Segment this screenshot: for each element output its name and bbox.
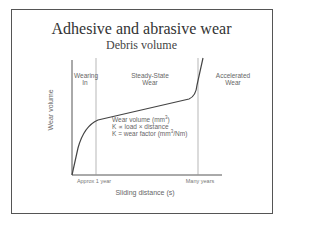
region-accelerated: Accelerated Wear bbox=[208, 72, 258, 86]
region-wearing-in: Wearing In bbox=[74, 72, 96, 86]
region-label-line: Accelerated bbox=[208, 72, 258, 79]
region-label-line: Wear bbox=[120, 79, 180, 86]
x-axis-label: Sliding distance (s) bbox=[100, 189, 190, 197]
region-label-line: Wear bbox=[208, 79, 258, 86]
region-steady-state: Steady-State Wear bbox=[120, 72, 180, 86]
note-k-factor: K = wear factor (mm3/Nm) bbox=[112, 130, 202, 137]
y-axis-label: Wear volume bbox=[47, 85, 55, 135]
region-label-line: Steady-State bbox=[120, 72, 180, 79]
formula-notes: Wear volume (mm3) K ∝ load × distance K … bbox=[112, 116, 202, 138]
x-tick-approx-1-year: Approx 1 year bbox=[72, 178, 116, 184]
x-tick-many-years: Many years bbox=[180, 178, 220, 184]
note-wear-volume: Wear volume (mm3) bbox=[112, 116, 202, 123]
note-k-proportional: K ∝ load × distance bbox=[112, 123, 202, 130]
region-label-line: In bbox=[74, 79, 96, 86]
region-label-line: Wearing bbox=[74, 72, 96, 79]
